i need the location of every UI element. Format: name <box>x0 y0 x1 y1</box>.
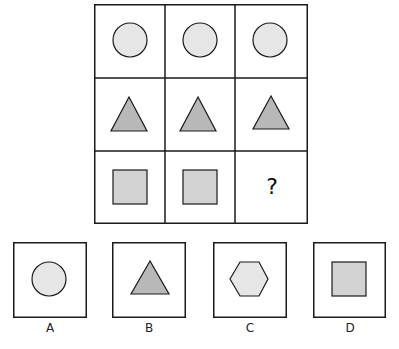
missing-cell-question-mark: ? <box>260 174 284 199</box>
grid-cell-r1c3-circle-icon <box>253 23 287 57</box>
option-b-frame <box>112 242 186 318</box>
grid-cell-r3c2-square-icon <box>183 170 217 204</box>
puzzle-grid: ? <box>94 4 308 224</box>
grid-cell-r1c1-circle-icon <box>113 23 147 57</box>
option-d-frame <box>313 242 386 318</box>
option-a[interactable] <box>13 242 87 318</box>
circle-icon <box>32 262 66 296</box>
option-d[interactable] <box>313 242 386 318</box>
option-b[interactable] <box>112 242 186 318</box>
option-a-label: A <box>40 321 60 335</box>
square-icon <box>332 262 366 296</box>
option-c[interactable] <box>213 242 287 318</box>
option-d-label: D <box>340 321 360 335</box>
grid-cell-r3c1-square-icon <box>113 170 147 204</box>
option-c-label: C <box>240 321 260 335</box>
grid-cell-r1c2-circle-icon <box>183 23 217 57</box>
option-c-frame <box>213 242 287 318</box>
option-b-label: B <box>139 321 159 335</box>
option-a-frame <box>13 242 87 318</box>
